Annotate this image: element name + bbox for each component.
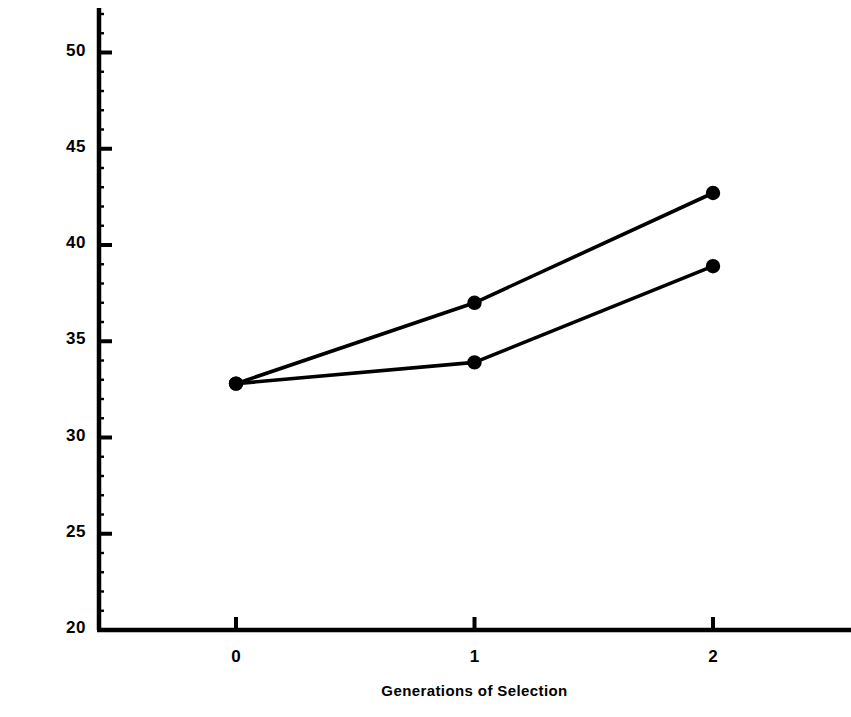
series-line xyxy=(230,260,720,390)
y-axis-tick-label: 35 xyxy=(26,329,86,349)
plot-area xyxy=(0,0,851,717)
data-point-marker xyxy=(707,187,720,200)
y-axis-tick-label: 30 xyxy=(26,426,86,446)
x-axis-tick-label: 0 xyxy=(216,647,256,667)
y-axis-tick-label: 50 xyxy=(26,41,86,61)
data-point-marker xyxy=(707,260,720,273)
axes xyxy=(97,8,851,630)
y-axis-tick-label: 20 xyxy=(26,618,86,638)
y-axis-tick-label: 40 xyxy=(26,233,86,253)
data-series xyxy=(230,187,720,390)
x-axis-tick-label: 2 xyxy=(693,647,733,667)
series-polyline xyxy=(236,193,713,384)
data-point-marker xyxy=(468,296,481,309)
axis-ticks xyxy=(99,14,713,630)
y-axis-tick-label: 45 xyxy=(26,137,86,157)
x-axis-tick-label: 1 xyxy=(455,647,495,667)
data-point-marker xyxy=(230,377,243,390)
data-point-marker xyxy=(468,356,481,369)
y-axis-tick-label: 25 xyxy=(26,522,86,542)
chart-figure: Days to 50% Mortality Generations of Sel… xyxy=(0,0,851,717)
